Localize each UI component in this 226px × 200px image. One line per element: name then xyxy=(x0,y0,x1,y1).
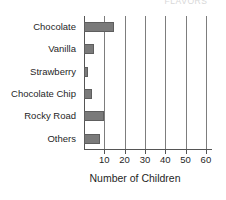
category-label: Rocky Road xyxy=(24,111,76,121)
x-tick-label: 10 xyxy=(99,154,110,166)
clipped-title-fragment: FLAVORS xyxy=(150,0,222,5)
category-label-row: Others xyxy=(0,128,80,150)
x-tick-label: 50 xyxy=(180,154,191,166)
bar-slot xyxy=(84,16,212,38)
plot-area xyxy=(84,16,212,150)
category-label: Chocolate Chip xyxy=(11,89,76,99)
bar-vanilla xyxy=(84,44,94,54)
x-axis-tick-labels: 102030405060 xyxy=(84,154,212,167)
category-label-row: Chocolate Chip xyxy=(0,83,80,105)
bars-layer xyxy=(84,16,212,150)
category-label: Chocolate xyxy=(33,22,76,32)
bar-rocky-road xyxy=(84,111,104,121)
bar-chart: FLAVORS Chocolate Vanilla Strawberry Cho… xyxy=(0,0,226,200)
category-axis-labels: Chocolate Vanilla Strawberry Chocolate C… xyxy=(0,16,80,150)
x-tick-label: 30 xyxy=(140,154,151,166)
bar-slot xyxy=(84,128,212,150)
bar-others xyxy=(84,134,100,144)
bar-slot xyxy=(84,38,212,60)
bar-slot xyxy=(84,105,212,127)
category-label: Vanilla xyxy=(48,44,76,54)
x-tick-label: 40 xyxy=(160,154,171,166)
x-tick-label: 60 xyxy=(201,154,212,166)
bar-slot xyxy=(84,83,212,105)
bar-slot xyxy=(84,61,212,83)
x-axis-title: Number of Children xyxy=(0,172,226,184)
category-label-row: Vanilla xyxy=(0,38,80,60)
category-label: Others xyxy=(47,134,76,144)
bar-strawberry xyxy=(84,67,88,77)
bar-chocolate-chip xyxy=(84,89,92,99)
category-label: Strawberry xyxy=(30,67,76,77)
x-tick-label: 20 xyxy=(119,154,130,166)
category-label-row: Strawberry xyxy=(0,61,80,83)
category-label-row: Rocky Road xyxy=(0,105,80,127)
category-label-row: Chocolate xyxy=(0,16,80,38)
bar-chocolate xyxy=(84,22,114,32)
